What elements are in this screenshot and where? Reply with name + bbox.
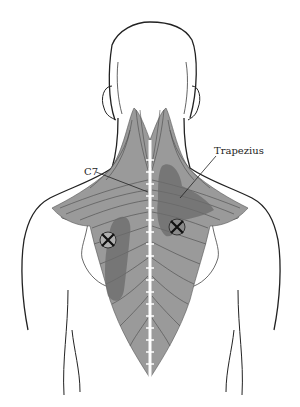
head-outline: [102, 22, 199, 120]
trigger-point-left: [100, 232, 116, 248]
c7-label: C7: [84, 167, 98, 177]
trapezius-label: Trapezius: [214, 146, 264, 156]
trigger-point-right: [169, 219, 185, 235]
trapezius-anatomy-illustration: [0, 0, 300, 407]
